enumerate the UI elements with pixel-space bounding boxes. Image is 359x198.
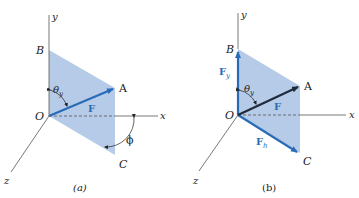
force-f-label: F — [274, 101, 281, 112]
origin-label: O — [35, 110, 44, 123]
point-a-label: A — [303, 80, 313, 93]
origin-label: O — [225, 109, 234, 122]
force-fh-label: Fh — [256, 136, 268, 150]
point-c-label: C — [119, 158, 128, 171]
force-f-label: F — [88, 103, 95, 114]
z-axis-label: z — [3, 175, 10, 186]
caption-a: (a) — [73, 182, 87, 193]
figure-canvas: y x z O B A C F θy ϕ (a) y x z O B A C F… — [0, 0, 359, 198]
force-fy-label: Fy — [219, 66, 231, 80]
point-a-label: A — [118, 82, 128, 95]
phi-label: ϕ — [126, 134, 134, 147]
point-b-label: B — [225, 43, 234, 56]
z-axis — [11, 116, 49, 172]
y-axis-label: y — [51, 11, 58, 22]
point-b-label: B — [35, 44, 44, 57]
z-axis — [199, 115, 238, 171]
figure-a: y x z O B A C F θy ϕ (a) — [3, 11, 166, 193]
z-axis-label: z — [192, 175, 199, 186]
x-axis-label: x — [160, 110, 166, 121]
figure-b: y x z O B A C F Fy Fh θy (b) — [192, 9, 355, 193]
caption-b: (b) — [262, 182, 276, 193]
y-axis-label: y — [240, 9, 247, 20]
x-axis-label: x — [349, 109, 355, 120]
point-c-label: C — [303, 155, 312, 168]
